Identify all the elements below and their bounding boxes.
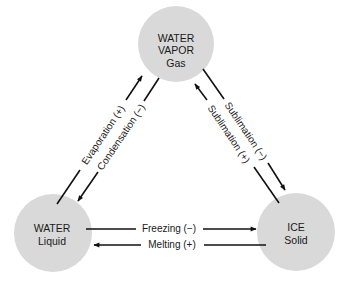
condensation-arrow-lower [78,172,98,201]
sublimation-minus-arrow-upper [203,69,224,99]
ice-label-line2: Solid [284,234,308,246]
edge-sublimation-plus: Sublimation (+) [195,84,279,203]
freezing-label: Freezing (−) [142,223,196,234]
melting-label: Melting (+) [148,239,196,250]
water-liquid-label-line2: Liquid [38,235,66,247]
water-vapor-label-line3: Gas [166,57,185,69]
edge-melting: Melting (+) [94,239,266,250]
condensation-arrow-upper [144,78,159,101]
water-phase-diagram: WATER VAPOR Gas WATER Liquid ICE Solid E… [0,0,349,281]
ice-label-line1: ICE [287,221,305,233]
edge-evaporation: Evaporation (+) [57,76,142,204]
node-ice: ICE Solid [257,193,335,271]
edge-freezing: Freezing (−) [86,223,256,234]
water-vapor-label-line2: VAPOR [158,44,194,56]
sublimation-plus-arrow-upper [195,84,207,100]
water-liquid-label-line1: WATER [34,222,71,234]
node-water-liquid: WATER Liquid [14,194,92,272]
evaporation-arrow-upper [126,76,142,100]
water-vapor-label-line1: WATER [158,32,195,44]
sublimation-plus-arrow-lower [254,167,279,203]
edge-condensation: Condensation (−) [78,78,159,201]
node-water-vapor: WATER VAPOR Gas [138,6,214,82]
edge-sublimation-minus: Sublimation (−) [203,69,285,190]
sublimation-minus-arrow-lower [268,163,285,190]
